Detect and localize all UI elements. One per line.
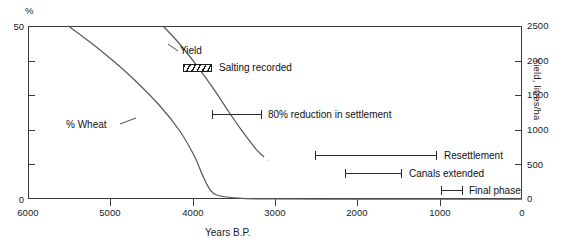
x-axis-tick-3000 <box>275 199 276 206</box>
range-cap-right <box>261 110 262 119</box>
x-axis-tick-2000 <box>357 199 358 206</box>
label-final-phase: Final phase <box>469 185 521 196</box>
x-axis-label-5000: 5000 <box>90 208 130 218</box>
range-cap-right <box>462 186 463 195</box>
left-axis-tick-20 <box>28 130 35 131</box>
right-axis-label-2500: 2500 <box>527 21 549 31</box>
right-axis-tick-1000 <box>515 130 522 131</box>
left-axis-unit-label: % <box>25 5 33 16</box>
left-axis-tick-40 <box>28 61 35 62</box>
right-axis-label-500: 500 <box>527 160 543 170</box>
range-cap-right <box>401 169 402 178</box>
range-cap-right <box>436 151 437 160</box>
left-axis-tick-30 <box>28 95 35 96</box>
curve-label-yield: Yield <box>180 45 202 56</box>
x-axis-label-0: 0 <box>512 208 532 218</box>
salting-recorded-swatch-icon <box>183 64 212 72</box>
right-axis-title: Yield, litres/ha <box>532 58 543 121</box>
range-bar-final-phase <box>441 186 463 195</box>
x-axis-title: Years B.P. <box>205 227 251 238</box>
left-axis-tick-label-0: 0 <box>8 194 24 205</box>
curve-label-wheat: % Wheat <box>66 119 107 130</box>
range-line <box>315 155 437 156</box>
range-line <box>441 190 463 191</box>
label-resettlement: Resettlement <box>444 150 503 161</box>
left-axis-tick-label-50: 50 <box>8 21 24 32</box>
range-line <box>212 114 262 115</box>
right-axis-tick-500 <box>515 164 522 165</box>
x-axis-label-1000: 1000 <box>420 208 460 218</box>
label-80-percent-reduction: 80% reduction in settlement <box>268 109 391 120</box>
x-axis-label-2000: 2000 <box>337 208 377 218</box>
label-canals-extended: Canals extended <box>409 168 484 179</box>
range-bar-canals-extended <box>345 169 402 178</box>
salting-recorded-label: Salting recorded <box>219 62 292 73</box>
range-bar-resettlement <box>315 151 437 160</box>
x-axis-label-3000: 3000 <box>255 208 295 218</box>
right-axis-tick-1500 <box>515 95 522 96</box>
x-axis-tick-1000 <box>440 199 441 206</box>
x-axis-tick-4000 <box>193 199 194 206</box>
x-axis-label-4000: 4000 <box>173 208 213 218</box>
right-axis-tick-2000 <box>515 61 522 62</box>
left-axis-tick-10 <box>28 164 35 165</box>
chart-root: % 50 0 2500 2000 1500 1000 500 0 Yield, … <box>0 0 576 249</box>
right-axis-label-1000: 1000 <box>527 125 549 135</box>
range-bar-80-percent-reduction <box>212 110 262 119</box>
x-axis-label-6000: 6000 <box>8 208 48 218</box>
range-line <box>345 173 402 174</box>
x-axis-tick-5000 <box>110 199 111 206</box>
right-axis-label-0: 0 <box>527 194 532 204</box>
